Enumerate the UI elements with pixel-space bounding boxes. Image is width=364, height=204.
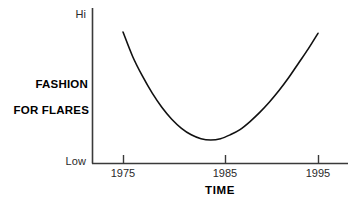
x-tick-label-1985: 1985 xyxy=(190,167,260,179)
y-axis-title: FASHION FOR FLARES xyxy=(0,65,88,129)
x-tick-label-1975: 1975 xyxy=(88,167,158,179)
x-axis-title: TIME xyxy=(150,184,290,197)
chart-figure: Hi Low FASHION FOR FLARES 1975 1985 1995… xyxy=(0,0,364,204)
y-axis-title-line2: FOR FLARES xyxy=(14,104,89,116)
y-axis-low-label: Low xyxy=(0,155,86,167)
y-axis-title-line1: FASHION xyxy=(35,78,88,90)
y-axis-high-label: Hi xyxy=(0,8,86,20)
x-tick-label-1995: 1995 xyxy=(283,167,353,179)
fashion-for-flares-curve xyxy=(123,32,318,140)
